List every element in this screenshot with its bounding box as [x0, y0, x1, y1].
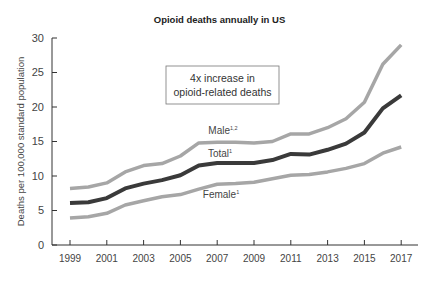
- x-tick-label: 2017: [390, 253, 413, 264]
- line-chart: 0510152025301999200120032005200720092011…: [0, 0, 439, 281]
- y-tick-label: 15: [32, 135, 44, 147]
- annotation-box: 4x increase inopioid-related deaths: [166, 66, 279, 104]
- y-tick-label: 0: [38, 239, 44, 251]
- x-tick-label: 2001: [96, 253, 119, 264]
- series-label-male: Male1,2: [208, 125, 237, 136]
- y-tick-label: 25: [32, 66, 44, 78]
- y-tick-label: 5: [38, 204, 44, 216]
- series-label-total: Total1: [208, 148, 232, 159]
- x-tick-label: 2009: [243, 253, 266, 264]
- annotation-line-2: opioid-related deaths: [173, 86, 271, 98]
- x-tick-label: 2013: [316, 253, 339, 264]
- x-tick-label: 2007: [206, 253, 229, 264]
- series-label-female: Female1: [203, 189, 239, 200]
- y-tick-label: 30: [32, 32, 44, 44]
- x-tick-label: 2011: [280, 253, 302, 264]
- x-tick-label: 2005: [169, 253, 192, 264]
- annotation-line-1: 4x increase in: [190, 72, 255, 84]
- y-tick-label: 10: [32, 170, 44, 182]
- y-tick-label: 20: [32, 101, 44, 113]
- x-tick-label: 1999: [59, 253, 82, 264]
- y-axis-label: Deaths per 100,000 standard population: [15, 57, 26, 227]
- series-line-female: [70, 147, 401, 218]
- x-tick-label: 2003: [132, 253, 155, 264]
- x-tick-label: 2015: [353, 253, 376, 264]
